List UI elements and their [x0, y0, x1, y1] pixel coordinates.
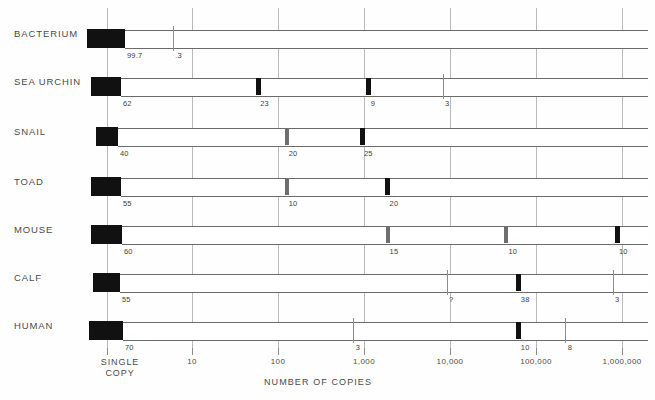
x-tick	[278, 348, 279, 355]
bar-segment-block	[89, 321, 123, 340]
bar-value-label: 25	[364, 149, 373, 158]
bar-marker	[366, 78, 371, 95]
bar-marker	[256, 78, 261, 95]
bar-marker	[385, 178, 390, 195]
x-axis-title: NUMBER OF COPIES	[264, 377, 372, 387]
row-label-bacterium: BACTERIUM	[14, 28, 78, 39]
chart-row: MOUSE60151010	[0, 212, 655, 260]
bar-track	[121, 78, 648, 97]
bar-segment-block	[91, 225, 122, 244]
bar-value-label: 99.7	[127, 51, 142, 60]
chart-row: CALF55?383	[0, 260, 655, 308]
chart-row: SEA URCHIN622393	[0, 64, 655, 112]
bar-marker	[360, 128, 365, 145]
row-label-toad: TOAD	[14, 176, 44, 187]
bar-value-label: 62	[123, 99, 132, 108]
x-tick-label: 1,000,000	[602, 357, 641, 366]
bar-value-label: 3	[445, 99, 449, 108]
bar-marker	[285, 128, 289, 145]
row-label-mouse: MOUSE	[14, 224, 53, 235]
bar-value-label: 9	[371, 99, 375, 108]
bar-value-label: 15	[390, 247, 399, 256]
bar-segment-block	[91, 77, 121, 96]
chart-row: BACTERIUM99.7.3	[0, 16, 655, 64]
x-tick-label: 10	[187, 357, 197, 366]
bar-segment-block	[96, 127, 118, 146]
x-tick	[192, 348, 193, 355]
bar-marker	[353, 318, 354, 343]
row-label-snail: SNAIL	[14, 126, 46, 137]
bar-marker	[173, 26, 174, 51]
bar-value-label: 3	[615, 295, 619, 304]
chart-row: TOAD551020	[0, 164, 655, 212]
row-label-sea-urchin: SEA URCHIN	[14, 76, 81, 87]
bar-segment-block	[87, 29, 125, 48]
bar-marker	[285, 178, 289, 195]
x-tick-label: 100	[271, 357, 286, 366]
bar-value-label: 10	[619, 247, 628, 256]
bar-track	[120, 274, 648, 293]
bar-marker	[447, 270, 448, 295]
bar-value-label: 20	[289, 149, 298, 158]
bar-marker	[565, 318, 566, 343]
row-label-human: HUMAN	[14, 320, 53, 331]
bar-value-label: 23	[260, 99, 269, 108]
bar-value-label: 55	[122, 295, 131, 304]
row-label-calf: CALF	[14, 272, 42, 283]
bar-track	[118, 128, 648, 147]
bar-track	[125, 30, 648, 49]
bar-track	[123, 322, 648, 341]
bar-marker	[615, 226, 620, 243]
x-tick	[107, 348, 108, 355]
bar-segment-block	[91, 177, 121, 196]
bar-value-label: 40	[120, 149, 129, 158]
bar-marker	[504, 226, 508, 243]
bar-value-label: .3	[175, 51, 182, 60]
bar-marker	[516, 274, 521, 291]
bar-marker	[443, 74, 444, 99]
x-tick-label: 1,000	[353, 357, 375, 366]
x-tick	[364, 348, 365, 355]
genome-copy-number-chart: BACTERIUM99.7.3SEA URCHIN622393SNAIL4020…	[0, 0, 655, 400]
bar-value-label: 10	[289, 199, 298, 208]
bar-value-label: 20	[390, 199, 399, 208]
bar-value-label: 55	[123, 199, 132, 208]
x-tick-label: 100,000	[520, 357, 552, 366]
x-tick	[622, 348, 623, 355]
bar-marker	[516, 322, 521, 339]
bar-value-label: ?	[449, 295, 453, 304]
bar-value-label: 10	[508, 247, 517, 256]
x-tick-label: 10,000	[437, 357, 464, 366]
bar-value-label: 38	[521, 295, 530, 304]
x-tick-label: SINGLECOPY	[101, 357, 139, 379]
x-axis: SINGLECOPY101001,00010,000100,0001,000,0…	[0, 348, 655, 400]
chart-row: SNAIL402025	[0, 114, 655, 162]
bar-segment-block	[93, 273, 120, 292]
bar-marker	[386, 226, 390, 243]
x-tick	[450, 348, 451, 355]
bar-marker	[613, 270, 614, 295]
x-tick	[536, 348, 537, 355]
bar-value-label: 60	[124, 247, 133, 256]
